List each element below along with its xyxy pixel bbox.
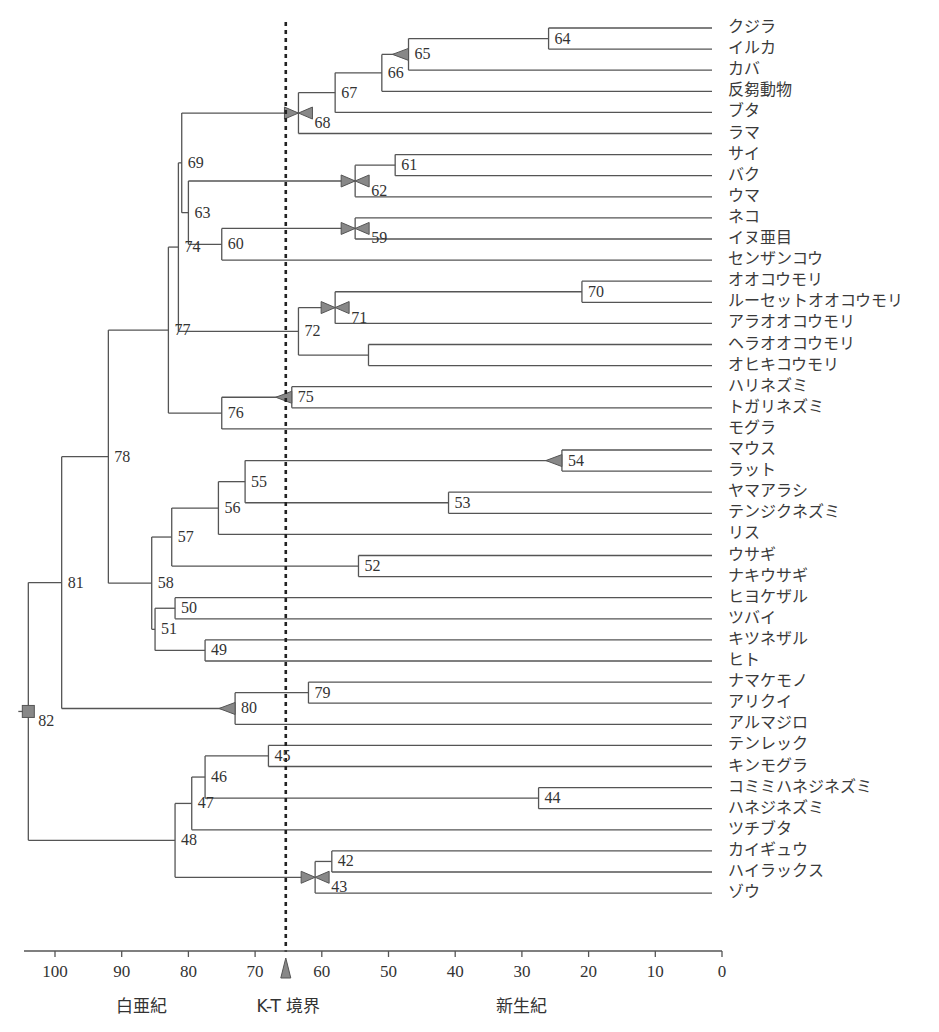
era-label-kt: K-T 境界 bbox=[257, 992, 321, 1017]
node-number-label: 77 bbox=[174, 322, 190, 338]
node-number-label: 79 bbox=[314, 685, 330, 701]
era-label-cenozoic: 新生紀 bbox=[496, 992, 547, 1017]
node-number-label: 78 bbox=[114, 449, 130, 465]
bowtie-marker-right-icon bbox=[335, 302, 349, 314]
era-label-cretaceous: 白亜紀 bbox=[116, 992, 167, 1017]
taxon-label: ナマケモノ bbox=[728, 672, 808, 690]
taxon-label: イヌ亜目 bbox=[728, 229, 792, 247]
taxon-label: 反芻動物 bbox=[728, 81, 792, 99]
axis-tick-label: 10 bbox=[647, 962, 664, 982]
taxon-label: キンモグラ bbox=[728, 757, 808, 775]
kt-boundary-arrow-icon bbox=[281, 958, 291, 978]
node-number-label: 80 bbox=[241, 700, 257, 716]
node-number-label: 56 bbox=[224, 500, 240, 516]
node-number-label: 76 bbox=[228, 405, 244, 421]
node-number-label: 49 bbox=[211, 642, 227, 658]
node-number-label: 55 bbox=[251, 474, 267, 490]
axis-tick-label: 80 bbox=[180, 962, 197, 982]
taxon-label: カイギュウ bbox=[728, 841, 808, 859]
taxon-label: センザンコウ bbox=[728, 250, 823, 268]
taxon-label: モグラ bbox=[728, 419, 776, 437]
node-number-label: 66 bbox=[388, 65, 404, 81]
bowtie-marker-right-icon bbox=[355, 175, 369, 187]
node-number-label: 70 bbox=[588, 284, 604, 300]
taxon-label: コミミハネジネズミ bbox=[728, 778, 872, 796]
axis-tick-label: 90 bbox=[113, 962, 130, 982]
node-number-label: 43 bbox=[331, 879, 347, 895]
taxon-label: テンレック bbox=[728, 735, 808, 753]
bowtie-marker-left-icon bbox=[301, 871, 315, 883]
node-number-label: 75 bbox=[298, 389, 314, 405]
bowtie-marker-right-icon bbox=[298, 107, 312, 119]
taxon-label: ネコ bbox=[728, 208, 760, 226]
axis-tick-label: 100 bbox=[42, 962, 68, 982]
axis-tick-label: 50 bbox=[380, 962, 397, 982]
taxon-label: マウス bbox=[728, 440, 776, 458]
taxon-label: オヒキコウモリ bbox=[728, 356, 839, 374]
taxon-label: イルカ bbox=[728, 39, 776, 57]
taxon-label: キツネザル bbox=[728, 630, 808, 648]
bowtie-marker-left-icon bbox=[341, 222, 355, 234]
taxon-label: ゾウ bbox=[728, 883, 760, 901]
taxon-label: ハリネズミ bbox=[728, 377, 808, 395]
taxon-label: テンジクネズミ bbox=[728, 503, 840, 521]
node-number-label: 51 bbox=[161, 621, 177, 637]
node-number-label: 54 bbox=[568, 453, 584, 469]
node-number-label: 52 bbox=[364, 558, 380, 574]
node-number-label: 42 bbox=[338, 853, 354, 869]
taxon-label: クジラ bbox=[728, 18, 776, 36]
taxon-label: ツチブタ bbox=[728, 820, 792, 838]
node-number-label: 69 bbox=[188, 155, 204, 171]
axis-tick-label: 0 bbox=[718, 962, 727, 982]
taxon-label: カバ bbox=[728, 60, 760, 78]
node-number-label: 46 bbox=[211, 769, 227, 785]
node-number-label: 59 bbox=[371, 230, 387, 246]
node-number-label: 67 bbox=[341, 85, 357, 101]
taxon-label: リス bbox=[728, 524, 760, 542]
taxon-label: ブタ bbox=[728, 102, 760, 120]
node-number-label: 81 bbox=[68, 575, 84, 591]
taxon-label: ルーセットオオコウモリ bbox=[728, 292, 903, 310]
node-number-label: 65 bbox=[415, 46, 431, 62]
axis-tick-label: 20 bbox=[580, 962, 597, 982]
taxon-label: バク bbox=[728, 166, 760, 184]
node-number-label: 53 bbox=[455, 495, 471, 511]
node-number-label: 74 bbox=[184, 239, 200, 255]
node-number-label: 48 bbox=[181, 832, 197, 848]
taxon-label: ヤマアラシ bbox=[728, 482, 808, 500]
taxon-label: ラマ bbox=[728, 124, 760, 142]
node-number-label: 62 bbox=[371, 183, 387, 199]
node-number-label: 50 bbox=[181, 600, 197, 616]
node-number-label: 72 bbox=[304, 323, 320, 339]
node-number-label: 60 bbox=[228, 236, 244, 252]
node-number-label: 44 bbox=[545, 790, 561, 806]
taxon-label: アルマジロ bbox=[728, 714, 808, 732]
taxon-label: アリクイ bbox=[728, 693, 792, 711]
taxon-label: ウサギ bbox=[728, 546, 776, 564]
node-number-label: 64 bbox=[555, 31, 571, 47]
bowtie-marker-right-icon bbox=[315, 871, 329, 883]
node-number-label: 82 bbox=[38, 713, 54, 729]
axis-tick-label: 70 bbox=[247, 962, 264, 982]
taxon-label: ヒト bbox=[728, 651, 760, 669]
node-number-label: 47 bbox=[198, 795, 214, 811]
node-number-label: 58 bbox=[158, 575, 174, 591]
node-number-label: 63 bbox=[194, 205, 210, 221]
taxon-label: ハイラックス bbox=[728, 862, 824, 880]
triangle-marker-icon bbox=[276, 391, 292, 403]
taxon-label: ツバイ bbox=[728, 609, 776, 627]
triangle-marker-icon bbox=[393, 48, 409, 60]
triangle-marker-icon bbox=[546, 455, 562, 467]
axis-tick-label: 30 bbox=[513, 962, 530, 982]
taxon-label: ヒヨケザル bbox=[728, 588, 808, 606]
taxon-label: アラオオコウモリ bbox=[728, 313, 855, 331]
axis-tick-label: 40 bbox=[447, 962, 464, 982]
taxon-label: サイ bbox=[728, 145, 760, 163]
bowtie-marker-left-icon bbox=[341, 175, 355, 187]
axis-tick-label: 60 bbox=[313, 962, 330, 982]
taxon-label: ヘラオオコウモリ bbox=[728, 335, 855, 353]
root-square-marker-icon bbox=[22, 705, 34, 717]
node-number-label: 71 bbox=[351, 310, 367, 326]
bowtie-marker-right-icon bbox=[355, 222, 369, 234]
taxon-label: トガリネズミ bbox=[728, 398, 824, 416]
